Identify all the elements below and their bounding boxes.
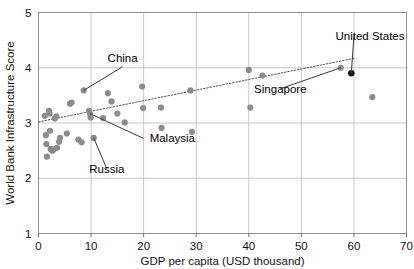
data-point [158, 125, 164, 131]
annotation-label-malaysia: Malaysia [150, 132, 196, 144]
x-axis-tick-label: 70 [400, 240, 413, 252]
x-axis-tick-label: 20 [137, 240, 150, 252]
annotation-label-singapore: Singapore [254, 83, 306, 95]
data-point [43, 141, 49, 147]
x-axis-title: GDP per capita (USD thousand) [140, 255, 304, 267]
x-axis-tick-label: 0 [35, 240, 41, 252]
data-point [69, 99, 75, 105]
data-point [53, 113, 59, 119]
data-point [122, 119, 128, 125]
x-axis-tick-label: 30 [190, 240, 203, 252]
data-point [247, 104, 253, 110]
data-point [105, 90, 111, 96]
y-axis-tick-label: 1 [25, 228, 31, 240]
data-point [139, 83, 145, 89]
y-axis-title: World Bank Infrastructure Score [4, 41, 16, 204]
data-point [158, 104, 164, 110]
data-point [140, 105, 146, 111]
y-axis-tick-label: 3 [25, 117, 31, 129]
data-point [57, 135, 63, 141]
chart-canvas: ChinaMalaysiaRussiaSingaporeUnited State… [0, 0, 414, 269]
y-axis-tick-label: 5 [25, 7, 31, 19]
x-axis-tick-label: 60 [348, 240, 361, 252]
data-point [108, 98, 114, 104]
annotation-label-china: China [108, 52, 139, 64]
data-point [369, 94, 375, 100]
scatter-chart-figure: ChinaMalaysiaRussiaSingaporeUnited State… [0, 0, 414, 269]
data-point [64, 130, 70, 136]
data-point [47, 128, 53, 134]
data-point [259, 72, 265, 78]
data-point [79, 139, 85, 145]
annotation-label-russia: Russia [89, 163, 125, 175]
data-point [46, 111, 52, 117]
data-point [114, 111, 120, 117]
x-axis-tick-label: 10 [85, 240, 98, 252]
data-point [91, 135, 97, 141]
annotation-label-united-states: United States [335, 30, 404, 42]
data-point [54, 145, 60, 151]
data-point [187, 87, 193, 93]
data-point [246, 67, 252, 73]
x-axis-tick-label: 50 [295, 240, 308, 252]
y-axis-tick-label: 2 [25, 172, 31, 184]
data-point [44, 154, 50, 160]
y-axis-tick-label: 4 [25, 62, 32, 74]
x-axis-tick-label: 40 [242, 240, 255, 252]
